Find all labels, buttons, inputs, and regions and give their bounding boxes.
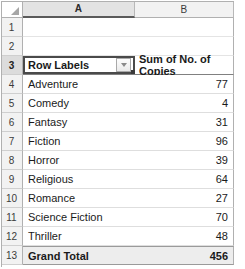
cell-b10[interactable]: 27: [135, 189, 234, 208]
cell-a5[interactable]: Comedy: [23, 94, 135, 113]
cell-b12[interactable]: 48: [135, 227, 234, 246]
table-row: 13 Grand Total 456: [1, 246, 234, 265]
cell-b1[interactable]: [135, 18, 234, 37]
filter-dropdown-icon[interactable]: [116, 58, 131, 72]
grid-body: 1 2 3 Row Labels Sum of No. of Copies: [1, 18, 234, 265]
table-row: 10 Romance 27: [1, 189, 234, 208]
column-header-row: A B: [1, 1, 234, 18]
table-row: 5 Comedy 4: [1, 94, 234, 113]
cell-a11[interactable]: Science Fiction: [23, 208, 135, 227]
row-header-6[interactable]: 6: [1, 113, 23, 132]
select-all-triangle-icon: [11, 7, 19, 15]
table-row: 12 Thriller 48: [1, 227, 234, 246]
row-header-3[interactable]: 3: [1, 56, 23, 75]
row-labels-text: Row Labels: [28, 59, 89, 71]
select-all-button[interactable]: [1, 1, 23, 18]
cell-a4[interactable]: Adventure: [23, 75, 135, 94]
cell-b11[interactable]: 70: [135, 208, 234, 227]
cell-b5[interactable]: 4: [135, 94, 234, 113]
grand-total-label-cell[interactable]: Grand Total: [23, 246, 135, 265]
row-header-12[interactable]: 12: [1, 227, 23, 246]
cell-a8[interactable]: Horror: [23, 151, 135, 170]
column-header-a[interactable]: A: [23, 1, 135, 18]
cell-a10[interactable]: Romance: [23, 189, 135, 208]
cell-b4[interactable]: 77: [135, 75, 234, 94]
row-labels-cell[interactable]: Row Labels: [23, 56, 135, 75]
cell-a1[interactable]: [23, 18, 135, 37]
cell-a7[interactable]: Fiction: [23, 132, 135, 151]
row-header-11[interactable]: 11: [1, 208, 23, 227]
row-header-2[interactable]: 2: [1, 37, 23, 56]
table-row: 6 Fantasy 31: [1, 113, 234, 132]
cell-a2[interactable]: [23, 37, 135, 56]
row-header-8[interactable]: 8: [1, 151, 23, 170]
cell-b7[interactable]: 96: [135, 132, 234, 151]
value-field-header-cell[interactable]: Sum of No. of Copies: [135, 56, 234, 75]
row-header-5[interactable]: 5: [1, 94, 23, 113]
row-header-1[interactable]: 1: [1, 18, 23, 37]
chevron-down-icon: [121, 63, 127, 67]
cell-a12[interactable]: Thriller: [23, 227, 135, 246]
table-row: 7 Fiction 96: [1, 132, 234, 151]
row-header-10[interactable]: 10: [1, 189, 23, 208]
row-header-9[interactable]: 9: [1, 170, 23, 189]
table-row: 9 Religious 64: [1, 170, 234, 189]
row-header-13[interactable]: 13: [1, 246, 23, 265]
cell-b6[interactable]: 31: [135, 113, 234, 132]
grand-total-value-cell[interactable]: 456: [135, 246, 234, 265]
cell-a9[interactable]: Religious: [23, 170, 135, 189]
cell-b8[interactable]: 39: [135, 151, 234, 170]
table-row: 4 Adventure 77: [1, 75, 234, 94]
row-header-7[interactable]: 7: [1, 132, 23, 151]
table-row: 8 Horror 39: [1, 151, 234, 170]
column-header-b[interactable]: B: [135, 1, 234, 18]
fill-handle[interactable]: [131, 70, 135, 74]
row-header-4[interactable]: 4: [1, 75, 23, 94]
table-row: 1: [1, 18, 234, 37]
cell-b9[interactable]: 64: [135, 170, 234, 189]
table-row: 3 Row Labels Sum of No. of Copies: [1, 56, 234, 75]
table-row: 11 Science Fiction 70: [1, 208, 234, 227]
cell-a6[interactable]: Fantasy: [23, 113, 135, 132]
spreadsheet-pivot-table: A B 1 2 3 Row Labels Sum o: [0, 0, 245, 269]
